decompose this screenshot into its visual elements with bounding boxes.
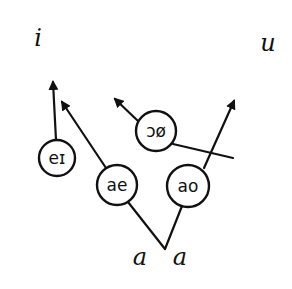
target-vowels: iu [34, 24, 276, 57]
vowel-nodes: eɪaeɔøao [39, 111, 209, 207]
arrow-icon-from-ei [53, 82, 56, 140]
node-ei: eɪ [39, 140, 75, 176]
target-label-u: u [260, 29, 275, 57]
origin-vowels: aa [133, 243, 187, 271]
connector-line-oo-tail [173, 144, 233, 158]
origin-label-a2: a [173, 243, 187, 271]
connector-line-v-left [128, 202, 165, 249]
node-ae: ae [97, 165, 137, 205]
origin-label-a1: a [133, 243, 147, 271]
node-oo: ɔø [136, 111, 176, 151]
node-label: eɪ [49, 148, 66, 168]
arrow-icon-from-oo [115, 99, 138, 121]
node-ao: ao [167, 165, 209, 207]
node-label: ae [107, 175, 128, 195]
target-label-i: i [34, 24, 42, 52]
vowel-shift-diagram: eɪaeɔøao iu aa [0, 0, 292, 289]
node-label: ao [178, 176, 199, 196]
node-label: ɔø [146, 121, 166, 141]
